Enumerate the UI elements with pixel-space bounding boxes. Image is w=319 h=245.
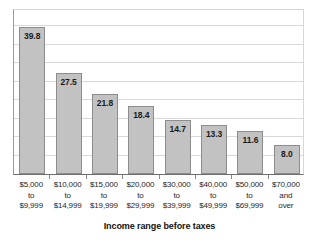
category-label: $70,000andover <box>268 180 304 212</box>
bar-slot: 21.8 <box>92 10 118 174</box>
chart-screenshot: 39.827.521.818.414.713.311.68.0 $5,000to… <box>0 0 319 245</box>
bar-slot: 18.4 <box>128 10 154 174</box>
category-label-line: $70,000 <box>268 180 304 191</box>
bar-value-label: 11.6 <box>238 135 262 145</box>
bar-value-label: 13.3 <box>202 129 226 139</box>
x-axis-title: Income range before taxes <box>0 221 319 231</box>
category-label: $10,000to$14,999 <box>49 180 85 212</box>
bar-slot: 13.3 <box>201 10 227 174</box>
plot-area: 39.827.521.818.414.713.311.68.0 <box>13 9 304 175</box>
category-label-line: $50,000 <box>231 180 267 191</box>
axis-tick <box>49 175 50 179</box>
bar-value-label: 18.4 <box>129 110 153 120</box>
category-label-line: $20,000 <box>122 180 158 191</box>
category-label-line: $49,999 <box>195 201 231 212</box>
category-label-line: $9,999 <box>13 201 49 212</box>
bar-slot: 8.0 <box>274 10 300 174</box>
category-label-line: to <box>13 191 49 202</box>
category-label-line: $5,000 <box>13 180 49 191</box>
category-axis-labels: $5,000to$9,999$10,000to$14,999$15,000to$… <box>13 180 304 216</box>
category-label-line: $14,999 <box>49 201 85 212</box>
category-label-line: and <box>268 191 304 202</box>
category-label-line: $39,999 <box>159 201 195 212</box>
axis-tick <box>268 175 269 179</box>
category-label-line: $15,000 <box>86 180 122 191</box>
bar-value-label: 39.8 <box>20 31 44 41</box>
category-label: $50,000to$69,999 <box>231 180 267 212</box>
bar-value-label: 27.5 <box>57 77 81 87</box>
category-label-line: to <box>195 191 231 202</box>
category-label: $40,000to$49,999 <box>195 180 231 212</box>
bar-value-label: 21.8 <box>93 98 117 108</box>
category-label-line: $29,999 <box>122 201 158 212</box>
axis-tick <box>195 175 196 179</box>
category-label-line: $30,000 <box>159 180 195 191</box>
bar-slot: 39.8 <box>19 10 45 174</box>
bar-slot: 27.5 <box>56 10 82 174</box>
bar-value-label: 8.0 <box>275 149 299 159</box>
bar[interactable]: 21.8 <box>92 94 118 174</box>
bar[interactable]: 27.5 <box>56 73 82 174</box>
category-label-line: to <box>49 191 85 202</box>
bar[interactable]: 39.8 <box>19 27 45 174</box>
category-label: $5,000to$9,999 <box>13 180 49 212</box>
axis-tick <box>122 175 123 179</box>
axis-tick <box>231 175 232 179</box>
category-label: $30,000to$39,999 <box>159 180 195 212</box>
category-label-line: $19,999 <box>86 201 122 212</box>
bar[interactable]: 13.3 <box>201 125 227 174</box>
bar-value-label: 14.7 <box>166 124 190 134</box>
axis-tick <box>86 175 87 179</box>
bar[interactable]: 11.6 <box>237 131 263 174</box>
category-label-line: $69,999 <box>231 201 267 212</box>
category-label-line: $40,000 <box>195 180 231 191</box>
bar-series: 39.827.521.818.414.713.311.68.0 <box>14 10 303 174</box>
category-label-line: $10,000 <box>49 180 85 191</box>
bar-slot: 14.7 <box>165 10 191 174</box>
category-label: $20,000to$29,999 <box>122 180 158 212</box>
category-label-line: to <box>159 191 195 202</box>
category-label-line: to <box>231 191 267 202</box>
category-label-line: over <box>268 201 304 212</box>
category-label: $15,000to$19,999 <box>86 180 122 212</box>
bar[interactable]: 18.4 <box>128 106 154 174</box>
category-label-line: to <box>86 191 122 202</box>
bar[interactable]: 8.0 <box>274 145 300 175</box>
bar-slot: 11.6 <box>237 10 263 174</box>
category-label-line: to <box>122 191 158 202</box>
axis-tick <box>159 175 160 179</box>
bar[interactable]: 14.7 <box>165 120 191 174</box>
